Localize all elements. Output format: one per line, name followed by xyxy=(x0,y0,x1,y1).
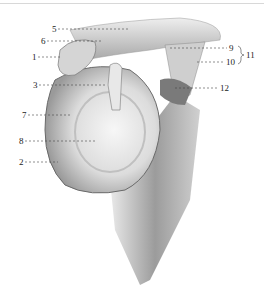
label-5: 5 xyxy=(52,25,57,34)
glenoid-cavity xyxy=(45,67,160,193)
anatomical-illustration xyxy=(0,0,264,289)
label-6: 6 xyxy=(41,37,46,46)
label-9: 9 xyxy=(229,44,234,53)
label-10: 10 xyxy=(226,58,235,67)
label-12: 12 xyxy=(220,84,229,93)
label-2: 2 xyxy=(19,158,24,167)
label-8: 8 xyxy=(19,137,24,146)
label-7: 7 xyxy=(22,111,27,120)
label-11: 11 xyxy=(246,51,255,60)
label-1: 1 xyxy=(32,53,37,62)
label-3: 3 xyxy=(33,81,38,90)
